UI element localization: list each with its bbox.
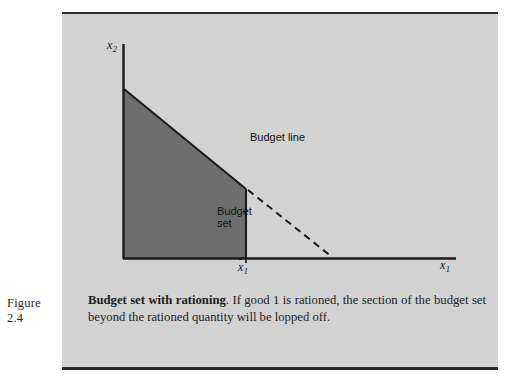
x-axis-label: x1 [440,258,450,273]
ration-quantity-sub: 1 [244,266,248,276]
ration-quantity-label: x1 [238,260,248,275]
y-axis-label-sub: 2 [113,44,117,54]
panel-rule-bottom [62,367,498,370]
caption-title: Budget set with rationing [88,293,226,307]
y-axis-label-var: x [107,38,112,52]
budget-set-plot: Budget line Budget set [62,14,498,284]
budget-set-label-line-1: Budget [217,205,252,217]
ration-quantity-var: x [238,260,243,274]
ration-quantity-var-wrap: x [238,260,243,275]
x-axis-label-var: x [440,258,445,272]
figure-root: Figure 2.4 Budget line Budget set [0,0,514,376]
overbar [239,259,242,260]
y-axis-label: x2 [107,38,117,53]
budget-set-label-line-2: set [217,217,252,229]
plot-svg [62,14,498,284]
x-axis-label-sub: 1 [446,264,450,274]
budget-line-dashed [248,190,332,257]
figure-number: Figure 2.4 [7,296,69,326]
figure-number-line-1: Figure [7,296,69,311]
figure-caption: Budget set with rationing. If good 1 is … [88,292,486,325]
figure-number-line-2: 2.4 [7,311,69,326]
budget-line-label: Budget line [250,131,305,143]
budget-set-label: Budget set [217,205,252,229]
